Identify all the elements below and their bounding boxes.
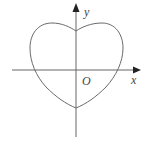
y-axis-arrow-icon (73, 3, 80, 12)
heart-curve-diagram: y x O (0, 0, 145, 152)
origin-label: O (82, 74, 91, 88)
y-axis-label: y (83, 5, 90, 19)
x-axis-label: x (130, 73, 137, 87)
